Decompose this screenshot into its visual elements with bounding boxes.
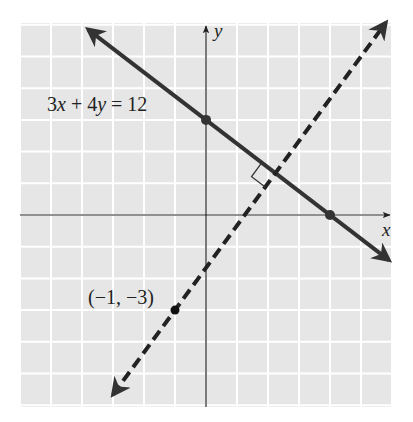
point-label: (−1, −3) [88, 286, 154, 309]
point--1--3 [171, 306, 180, 315]
y-axis-label: y [212, 20, 223, 41]
chart: x y 3x + 4y = 12 (−1, −3) [0, 0, 413, 422]
line-equation-label: 3x + 4y = 12 [47, 93, 147, 116]
x-axis-label: x [381, 219, 391, 240]
point-4-0 [325, 210, 335, 220]
point-0-3 [201, 115, 211, 125]
chart-svg: x y 3x + 4y = 12 (−1, −3) [0, 0, 413, 422]
